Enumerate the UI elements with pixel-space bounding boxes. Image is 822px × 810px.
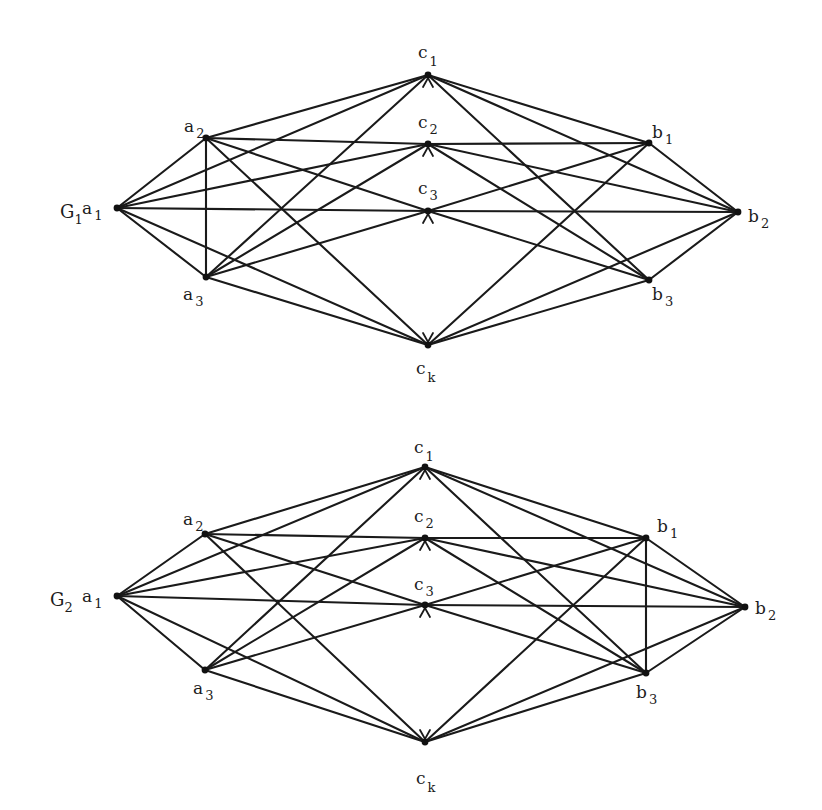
node-c1	[425, 72, 432, 79]
edge-a1-c1	[117, 467, 425, 596]
edge-a1-a3	[117, 208, 206, 277]
edge-a1-c2	[117, 144, 428, 208]
node-c3	[422, 602, 429, 609]
node-c2	[425, 141, 432, 148]
node-c3	[425, 208, 432, 215]
node-b3	[643, 670, 650, 677]
edge-b2-ck	[425, 607, 745, 742]
label-a3: a3	[183, 284, 203, 309]
node-b2	[742, 604, 749, 611]
edge-a3-c3	[206, 211, 428, 277]
edge-a2-c2	[206, 138, 428, 144]
edge-a1-c1	[117, 75, 428, 208]
g2-title: G2	[50, 589, 73, 615]
edge-b1-c2	[428, 143, 649, 144]
edge-a1-c2	[117, 538, 425, 596]
tick-c3	[423, 214, 433, 223]
edge-a2-ck	[206, 138, 428, 345]
label-ck: ck	[416, 768, 436, 795]
edge-b3-ck	[428, 280, 649, 345]
node-ck	[422, 739, 429, 746]
edge-a2-c2	[205, 534, 425, 538]
tick-c3	[420, 608, 430, 617]
edge-a1-c3	[117, 208, 428, 211]
edge-a3-ck	[206, 277, 428, 345]
node-b3	[646, 277, 653, 284]
node-a1	[114, 205, 121, 212]
graph-g1: a1a2a3c1c2c3ckb1b2b3 G1	[0, 0, 822, 405]
g1-labels: a1a2a3c1c2c3ckb1b2b3	[82, 42, 769, 385]
edge-a1-a3	[117, 596, 205, 670]
node-b1	[643, 535, 650, 542]
edge-a1-a2	[117, 138, 206, 208]
label-c1: c1	[414, 437, 434, 464]
edge-a2-c1	[205, 467, 425, 534]
label-c2: c2	[414, 506, 434, 531]
node-a1	[114, 593, 121, 600]
edge-a3-c3	[205, 605, 425, 670]
label-b2: b2	[755, 598, 776, 623]
node-c2	[422, 535, 429, 542]
label-ck: ck	[416, 358, 436, 385]
label-a3: a3	[193, 678, 213, 703]
label-c3: c3	[414, 574, 434, 599]
label-b3: b3	[652, 284, 673, 309]
edge-a3-ck	[205, 670, 425, 742]
node-a3	[202, 667, 209, 674]
label-b1: b1	[657, 516, 678, 541]
label-a2: a2	[184, 116, 204, 141]
label-b2: b2	[748, 206, 769, 231]
edge-b2-c3	[428, 211, 738, 212]
edge-b2-c3	[425, 605, 745, 607]
edge-b3-c3	[428, 211, 649, 280]
edge-a1-ck	[117, 208, 428, 345]
edge-a3-c1	[205, 467, 425, 670]
node-b2	[735, 209, 742, 216]
edge-b3-c1	[428, 75, 649, 280]
label-b1: b1	[652, 122, 673, 147]
edge-b3-ck	[425, 673, 646, 742]
g1-title: G1	[60, 201, 83, 227]
edge-b2-ck	[428, 212, 738, 345]
edge-b1-c1	[428, 75, 649, 143]
edge-a3-c1	[206, 75, 428, 277]
label-a1: a1	[82, 198, 102, 223]
edge-a2-c3	[206, 138, 428, 211]
node-c1	[422, 464, 429, 471]
edge-b2-c2	[428, 144, 738, 212]
label-a2: a2	[183, 509, 203, 534]
node-a3	[203, 274, 210, 281]
tick-c2	[423, 147, 433, 156]
graph-g2: a1a2a3c1c2c3ckb1b2b3 G2	[0, 405, 822, 810]
tick-c2	[420, 541, 430, 550]
figure: a1a2a3c1c2c3ckb1b2b3 G1 a1a2a3c1c2c3ckb1…	[0, 0, 822, 810]
label-c2: c2	[418, 112, 438, 137]
label-a1: a1	[82, 586, 102, 611]
label-c1: c1	[418, 42, 438, 69]
edge-b3-c3	[425, 605, 646, 673]
edge-b1-c1	[425, 467, 646, 538]
node-ck	[425, 342, 432, 349]
label-b3: b3	[636, 682, 657, 707]
edge-b2-b3	[649, 212, 738, 280]
label-c3: c3	[418, 178, 438, 203]
edge-b2-b3	[646, 607, 745, 673]
edge-b1-ck	[428, 143, 649, 345]
